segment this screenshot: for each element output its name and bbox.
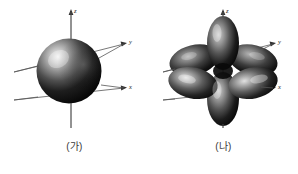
axis-label-x-a: x — [129, 84, 132, 91]
axis-label-x-b: x — [278, 84, 281, 91]
figure-panel-b: z y x (나) — [149, 0, 298, 174]
axis-label-z-a: z — [74, 8, 77, 15]
figure-panel-a: z y x (가) — [0, 0, 149, 174]
orbital-node — [213, 63, 233, 79]
figure-caption-a: (가) — [0, 138, 149, 153]
axis-label-z-b: z — [226, 8, 229, 15]
p-orbital-lobes — [165, 16, 281, 126]
figure-caption-b: (나) — [149, 138, 298, 153]
axis-label-y-b: y — [278, 39, 281, 46]
s-orbital-diagram — [0, 0, 149, 140]
axis-label-y-a: y — [129, 39, 132, 46]
p-orbital-diagram — [149, 0, 298, 140]
s-orbital-sphere — [37, 39, 102, 104]
lobe-plus-z — [207, 16, 239, 70]
